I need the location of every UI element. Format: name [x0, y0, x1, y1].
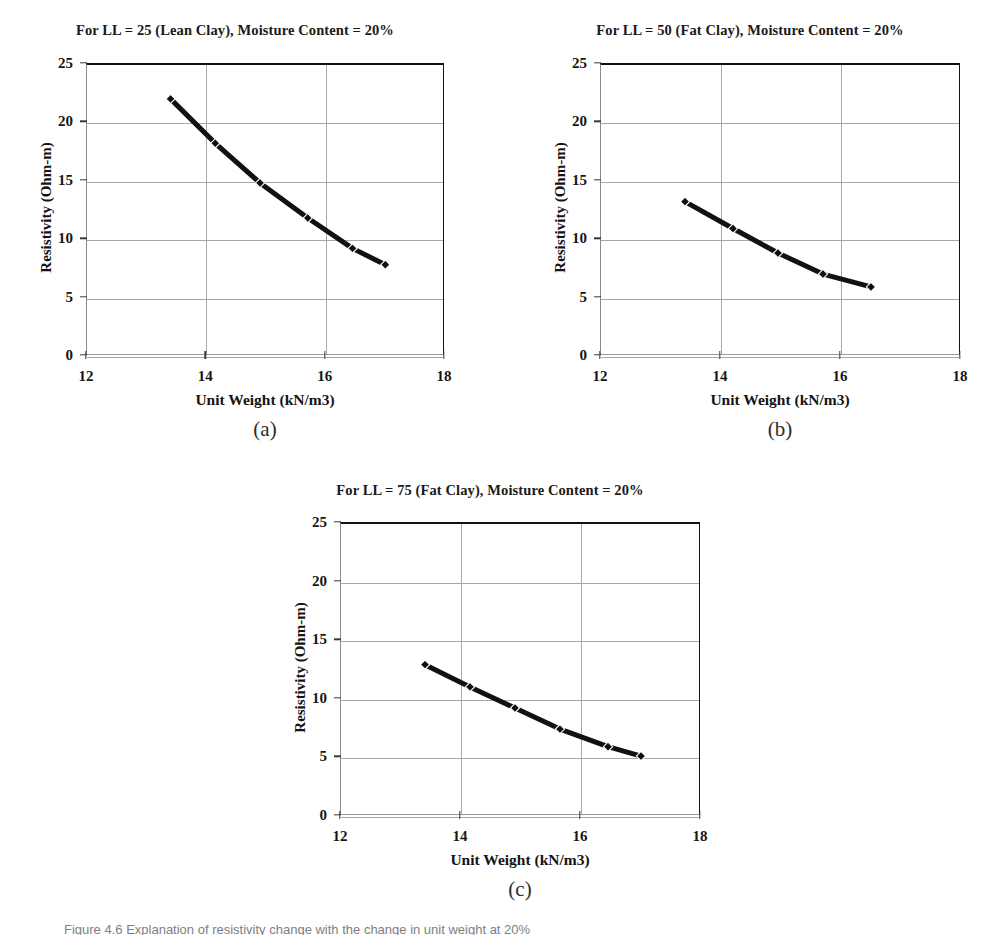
- y-tick-mark: [334, 756, 341, 757]
- plot-area-c: [340, 522, 700, 815]
- x-tick-label: 14: [198, 368, 213, 385]
- figure-caption: Figure 4.6 Explanation of resistivity ch…: [64, 922, 944, 935]
- y-tick-mark: [594, 62, 601, 63]
- x-tick-label: 18: [437, 368, 452, 385]
- y-tick-label: 5: [515, 288, 587, 305]
- x-tick-label: 12: [79, 368, 94, 385]
- plot-area-b: [600, 63, 960, 355]
- y-tick-label: 10: [255, 689, 327, 706]
- y-tick-mark: [594, 296, 601, 297]
- y-tick-mark: [334, 580, 341, 581]
- y-tick-label: 0: [515, 347, 587, 364]
- figure-page: For LL = 25 (Lean Clay), Moisture Conten…: [0, 0, 1007, 935]
- x-tick-mark: [579, 811, 580, 819]
- y-tick-label: 10: [0, 230, 73, 247]
- x-axis-label-b: Unit Weight (kN/m3): [600, 391, 960, 409]
- y-tick-label: 15: [255, 631, 327, 648]
- x-tick-label: 18: [953, 368, 968, 385]
- data-series-group: [601, 65, 961, 357]
- y-tick-label: 20: [515, 113, 587, 130]
- x-tick-label: 18: [693, 828, 708, 845]
- x-tick-mark: [459, 811, 460, 819]
- x-tick-mark: [599, 351, 600, 359]
- x-tick-label: 16: [573, 828, 588, 845]
- panel-letter-c: (c): [340, 877, 700, 902]
- y-tick-label: 15: [0, 171, 73, 188]
- x-axis-label-c: Unit Weight (kN/m3): [340, 851, 700, 869]
- x-tick-mark: [324, 351, 325, 359]
- x-tick-mark: [85, 351, 86, 359]
- x-tick-label: 14: [713, 368, 728, 385]
- y-tick-mark: [334, 697, 341, 698]
- x-tick-label: 16: [317, 368, 332, 385]
- panel-letter-a: (a): [86, 417, 444, 442]
- chart-panel-b: For LL = 50 (Fat Clay), Moisture Content…: [515, 0, 985, 460]
- y-tick-label: 5: [255, 748, 327, 765]
- y-tick-label: 25: [0, 55, 73, 72]
- y-tick-mark: [80, 237, 87, 238]
- chart-title-b: For LL = 50 (Fat Clay), Moisture Content…: [515, 22, 985, 39]
- gridline-horizontal: [601, 357, 959, 358]
- y-tick-mark: [80, 121, 87, 122]
- y-tick-label: 20: [255, 572, 327, 589]
- y-tick-label: 0: [0, 347, 73, 364]
- y-tick-label: 5: [0, 288, 73, 305]
- chart-panel-a: For LL = 25 (Lean Clay), Moisture Conten…: [0, 0, 470, 460]
- y-axis-label-c: Resistivity (Ohm-m): [292, 572, 309, 762]
- y-tick-mark: [334, 521, 341, 522]
- x-tick-label: 16: [833, 368, 848, 385]
- series-line: [685, 202, 871, 287]
- data-series-group: [87, 65, 445, 357]
- x-tick-mark: [699, 811, 700, 819]
- x-axis-label-a: Unit Weight (kN/m3): [86, 391, 444, 409]
- x-tick-mark: [443, 351, 444, 359]
- y-tick-label: 25: [515, 55, 587, 72]
- x-tick-mark: [205, 351, 206, 359]
- plot-area-a: [86, 63, 444, 355]
- y-tick-mark: [594, 237, 601, 238]
- x-tick-label: 12: [593, 368, 608, 385]
- chart-title-a: For LL = 25 (Lean Clay), Moisture Conten…: [0, 22, 470, 39]
- y-tick-mark: [80, 296, 87, 297]
- y-tick-mark: [594, 179, 601, 180]
- y-tick-label: 20: [0, 113, 73, 130]
- gridline-horizontal: [341, 817, 699, 818]
- y-tick-label: 15: [515, 171, 587, 188]
- y-tick-mark: [80, 62, 87, 63]
- panel-letter-b: (b): [600, 417, 960, 442]
- series-line: [171, 99, 386, 265]
- chart-panel-c: For LL = 75 (Fat Clay), Moisture Content…: [255, 460, 725, 920]
- y-axis-label-b: Resistivity (Ohm-m): [552, 113, 569, 303]
- x-tick-label: 14: [453, 828, 468, 845]
- y-tick-label: 10: [515, 230, 587, 247]
- x-tick-mark: [339, 811, 340, 819]
- y-tick-label: 25: [255, 514, 327, 531]
- y-tick-label: 0: [255, 807, 327, 824]
- gridline-horizontal: [87, 357, 443, 358]
- x-tick-mark: [959, 351, 960, 359]
- y-tick-mark: [594, 121, 601, 122]
- y-axis-label-a: Resistivity (Ohm-m): [38, 113, 55, 303]
- x-tick-label: 12: [333, 828, 348, 845]
- y-tick-mark: [334, 638, 341, 639]
- x-tick-mark: [719, 351, 720, 359]
- y-tick-mark: [80, 179, 87, 180]
- data-series-group: [341, 524, 701, 817]
- chart-title-c: For LL = 75 (Fat Clay), Moisture Content…: [255, 482, 725, 499]
- x-tick-mark: [839, 351, 840, 359]
